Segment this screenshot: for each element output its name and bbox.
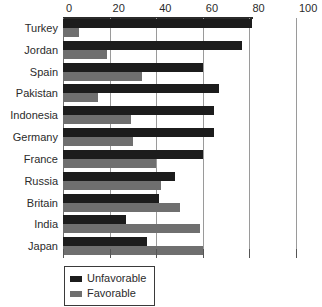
bar-unfavorable [63,215,126,224]
horizontal-bar-chart: 020406080100 UnfavorableFavorable Turkey… [0,0,322,307]
bar-unfavorable [63,106,214,115]
category-label-russia: Russia [0,175,58,187]
bar-unfavorable [63,150,203,159]
category-label-indonesia: Indonesia [0,109,58,121]
bar-group-row [63,83,296,104]
bar-group-row [63,193,296,214]
category-label-turkey: Turkey [0,22,58,34]
legend-entry-unfavorable: Unfavorable [70,271,146,286]
category-label-pakistan: Pakistan [0,87,58,99]
legend-swatch-unfavorable-icon [70,276,82,282]
legend-entry-favorable: Favorable [70,286,146,301]
bar-favorable [63,224,200,233]
x-bottom-tick [110,249,111,258]
bar-group-row [63,62,296,83]
bar-group-row [63,149,296,170]
bar-group-row [63,214,296,235]
x-bottom-tick [203,249,204,258]
x-tick-label: 20 [110,2,125,15]
x-tick-label: 40 [156,2,171,15]
x-tick-label: 0 [63,2,72,15]
x-tick-label: 60 [203,2,218,15]
category-label-jordan: Jordan [0,44,58,56]
bar-favorable [63,115,131,124]
bar-favorable [63,93,98,102]
legend-label: Favorable [87,287,136,300]
category-label-japan: Japan [0,240,58,252]
bar-unfavorable [63,194,159,203]
bar-group-row [63,18,296,39]
x-bottom-tick [249,249,250,258]
bar-favorable [63,28,79,37]
legend-swatch-favorable-icon [70,291,82,297]
bar-favorable [63,159,156,168]
bar-unfavorable [63,237,147,246]
bar-unfavorable [63,19,252,28]
bar-group-row [63,105,296,126]
bar-favorable [63,203,180,212]
category-label-spain: Spain [0,66,58,78]
x-bottom-tick [296,249,297,258]
chart-legend: UnfavorableFavorable [64,266,155,306]
x-tick-label: 80 [249,2,264,15]
x-bottom-tick [156,249,157,258]
bar-favorable [63,72,142,81]
bar-group-row [63,127,296,148]
legend-label: Unfavorable [87,272,146,285]
category-label-france: France [0,153,58,165]
bar-unfavorable [63,84,219,93]
x-axis-tick-label-row: 020406080100 [0,0,322,18]
category-label-india: India [0,218,58,230]
bar-favorable [63,50,107,59]
category-label-britain: Britain [0,197,58,209]
bar-group-row [63,40,296,61]
category-label-germany: Germany [0,131,58,143]
bar-unfavorable [63,172,175,181]
x-tick-label: 100 [296,2,317,15]
x-bottom-tick [63,249,64,258]
bar-unfavorable [63,128,214,137]
bar-unfavorable [63,63,203,72]
bar-favorable [63,181,161,190]
bar-group-row [63,171,296,192]
bar-favorable [63,137,133,146]
bar-unfavorable [63,41,242,50]
x-axis-bottom-ticks [63,249,296,259]
gridline-100 [296,18,297,258]
plot-area [63,18,296,258]
